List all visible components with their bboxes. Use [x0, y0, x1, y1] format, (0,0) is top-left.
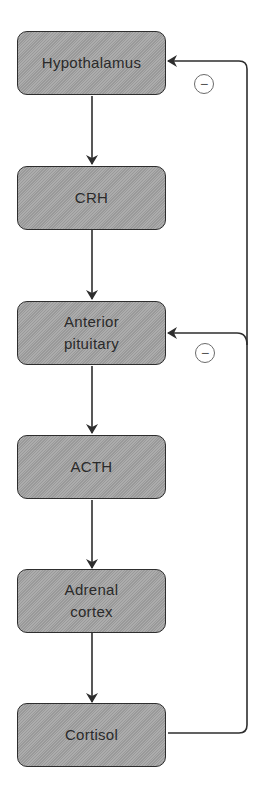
node-label: Hypothalamus [42, 52, 141, 74]
node-label: ACTH [70, 456, 112, 478]
node-acth: ACTH [17, 435, 166, 499]
node-adrenal-cortex: Adrenal cortex [17, 569, 166, 633]
node-cortisol: Cortisol [17, 703, 166, 767]
node-hypothalamus: Hypothalamus [17, 31, 166, 95]
node-label: Adrenal cortex [65, 579, 119, 623]
inhibition-minus-icon: − [194, 74, 214, 94]
inhibition-minus-icon: − [195, 343, 215, 363]
node-anterior-pituitary: Anterior pituitary [17, 301, 166, 365]
node-label: Anterior pituitary [64, 311, 119, 355]
node-label: CRH [75, 187, 108, 209]
minus-symbol: − [200, 77, 208, 91]
minus-symbol: − [201, 346, 209, 360]
connector-lines [0, 0, 262, 793]
node-crh: CRH [17, 166, 166, 230]
node-label: Cortisol [65, 724, 118, 746]
feedback-to-hypothalamus [168, 61, 247, 733]
